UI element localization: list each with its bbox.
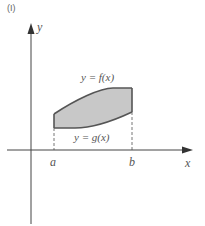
curve-g-label: y = g(x) (74, 132, 110, 143)
diagram-canvas (0, 0, 205, 226)
x-axis-arrow-icon (182, 147, 193, 154)
y-axis-label: y (37, 21, 42, 33)
tick-label-b: b (129, 156, 135, 168)
x-axis-label: x (185, 157, 190, 169)
tick-label-a: a (50, 156, 56, 168)
shaded-region (54, 88, 132, 128)
y-axis-arrow-icon (28, 23, 35, 34)
curve-f-label: y = f(x) (81, 72, 114, 83)
panel-label: (I) (7, 4, 16, 13)
area-between-curves-diagram: (I) y x a b y = f(x) y = g(x) (0, 0, 205, 226)
